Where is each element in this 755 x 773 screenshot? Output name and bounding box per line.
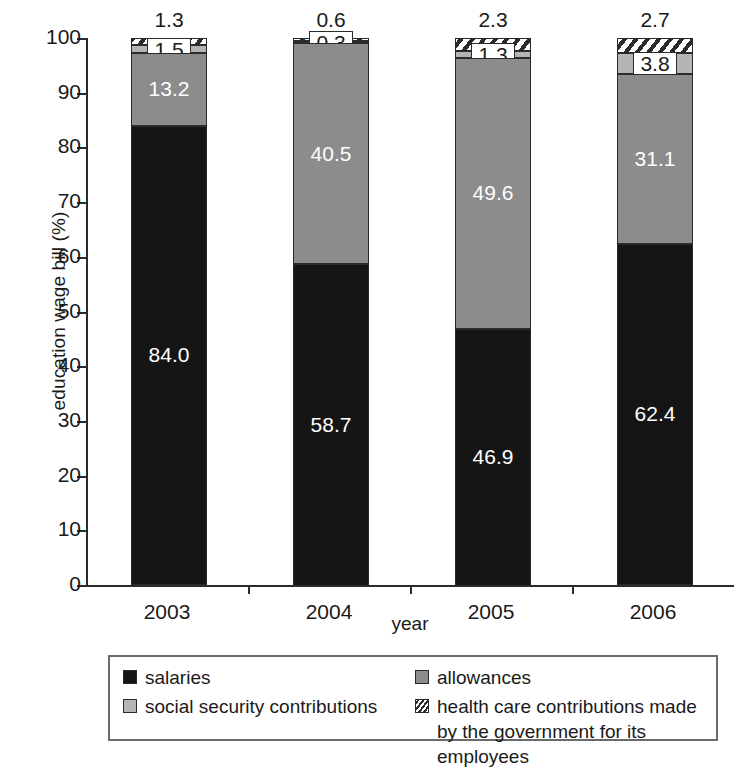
bar-2006[interactable]: 3.831.162.42.7 xyxy=(617,38,693,585)
bar-2003[interactable]: 1.513.284.01.3 xyxy=(131,38,207,585)
legend-label-salaries: salaries xyxy=(145,665,210,690)
bar-segment-allowances[interactable] xyxy=(455,51,531,58)
x-tick-mark xyxy=(410,585,412,594)
y-tick-label: 0 xyxy=(69,572,81,596)
bar-segment-social[interactable] xyxy=(131,53,207,125)
bar-segment-salaries[interactable] xyxy=(131,126,207,585)
x-tick-mark xyxy=(572,585,574,594)
bar-segment-allowances[interactable] xyxy=(131,45,207,53)
bar-segment-health[interactable] xyxy=(455,38,531,51)
bar-top-label-2003: 1.3 xyxy=(131,8,207,32)
bar-2004[interactable]: 0.340.558.70.6 xyxy=(293,38,369,585)
stacked-bar-chart: education wage bill (%) 0102030405060708… xyxy=(0,0,755,773)
legend-swatch-social-security-icon xyxy=(123,699,137,713)
legend-label-allowances: allowances xyxy=(437,665,531,690)
legend-item-allowances[interactable]: allowances xyxy=(415,665,710,690)
bar-top-label-2006: 2.7 xyxy=(617,8,693,32)
bar-segment-health[interactable] xyxy=(617,38,693,53)
bar-2005[interactable]: 1.349.646.92.3 xyxy=(455,38,531,585)
y-tick-label: 90 xyxy=(58,80,81,104)
legend-column-left: salaries social security contributions xyxy=(123,665,413,723)
bar-segment-allowances[interactable] xyxy=(617,53,693,74)
y-tick-label: 40 xyxy=(58,353,81,377)
bar-segment-salaries[interactable] xyxy=(617,244,693,585)
y-tick-label: 30 xyxy=(58,408,81,432)
bar-segment-salaries[interactable] xyxy=(455,329,531,586)
y-tick-label: 50 xyxy=(58,299,81,323)
legend-item-social-security[interactable]: social security contributions xyxy=(123,694,413,719)
x-axis-title: year xyxy=(86,613,734,635)
y-tick-label: 10 xyxy=(58,517,81,541)
x-tick-mark xyxy=(248,585,250,594)
plot-area: 0102030405060708090100 2003200420052006 … xyxy=(86,38,734,585)
bar-top-label-2005: 2.3 xyxy=(455,8,531,32)
legend-column-right: allowances health care contributions mad… xyxy=(415,665,710,773)
bar-segment-social[interactable] xyxy=(293,43,369,265)
legend-label-health-care: health care contributions made by the go… xyxy=(437,694,710,769)
y-tick-label: 60 xyxy=(58,244,81,268)
legend-swatch-health-care-icon xyxy=(415,699,429,713)
y-axis-line xyxy=(86,38,88,586)
bar-top-label-2004: 0.6 xyxy=(293,8,369,32)
legend-swatch-allowances-icon xyxy=(415,670,429,684)
legend-item-health-care[interactable]: health care contributions made by the go… xyxy=(415,694,710,769)
legend-swatch-salaries-icon xyxy=(123,670,137,684)
bar-segment-social[interactable] xyxy=(455,58,531,329)
y-tick-label: 80 xyxy=(58,134,81,158)
y-tick-label: 70 xyxy=(58,189,81,213)
y-tick-label: 100 xyxy=(46,25,81,49)
bar-segment-health[interactable] xyxy=(131,38,207,45)
bar-segment-social[interactable] xyxy=(617,74,693,244)
legend-label-social-security: social security contributions xyxy=(145,694,377,719)
legend-item-salaries[interactable]: salaries xyxy=(123,665,413,690)
legend: salaries social security contributions a… xyxy=(108,655,718,741)
bar-segment-salaries[interactable] xyxy=(293,264,369,585)
y-tick-label: 20 xyxy=(58,463,81,487)
